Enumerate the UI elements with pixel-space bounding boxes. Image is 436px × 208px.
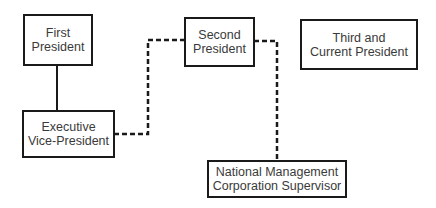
edge-second-to-nmcs: [254, 41, 277, 161]
node-label-line: Second: [193, 28, 246, 42]
node-label-line: President: [32, 40, 85, 54]
node-label-line: President: [193, 42, 246, 56]
node-first-president: First President: [23, 14, 93, 66]
node-label-line: National Management: [213, 165, 342, 179]
node-label-line: Third and: [310, 31, 408, 45]
node-label-line: Current President: [310, 45, 408, 59]
edge-evp-to-second: [114, 40, 184, 134]
node-label-line: Vice-President: [28, 134, 109, 148]
node-label-line: First: [32, 26, 85, 40]
node-label-line: Executive: [28, 120, 109, 134]
node-executive-vice-president: Executive Vice-President: [22, 110, 115, 158]
node-second-president: Second President: [184, 17, 255, 67]
node-label-line: Corporation Supervisor: [213, 179, 342, 193]
node-national-management-corporation-supervisor: National Management Corporation Supervis…: [207, 160, 347, 198]
node-third-current-president: Third and Current President: [300, 19, 418, 70]
